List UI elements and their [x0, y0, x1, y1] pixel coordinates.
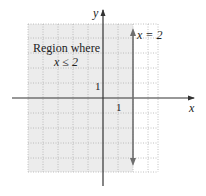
y-tick-label: 1	[95, 80, 101, 92]
inequality-graph: y x 1 1 Region where x ≤ 2 x = 2	[0, 0, 206, 196]
y-axis-label: y	[92, 6, 99, 20]
region-label-line2: x ≤ 2	[53, 55, 78, 69]
x-tick-label: 1	[116, 101, 122, 113]
boundary-line-label: x = 2	[136, 28, 162, 42]
x-axis-arrow-icon	[188, 96, 195, 101]
x-axis-label: x	[188, 101, 195, 115]
region-label-line1: Region where	[33, 41, 100, 55]
y-axis-arrow-icon	[101, 9, 106, 16]
